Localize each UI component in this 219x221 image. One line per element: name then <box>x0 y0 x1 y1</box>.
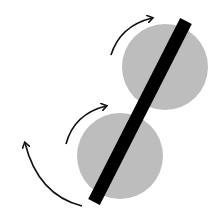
rotation-diagram <box>0 0 219 221</box>
outer-rotation-arrow-icon <box>25 143 82 206</box>
